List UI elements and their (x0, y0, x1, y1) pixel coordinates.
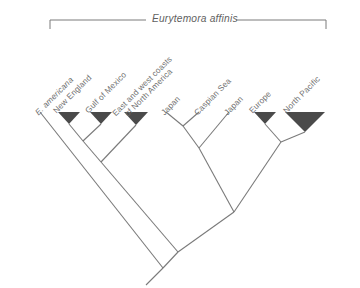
collapsed-clade-triangle-new-england (58, 112, 80, 124)
branch-gulf-of-mexico (83, 124, 101, 141)
branch-japan-2 (199, 112, 229, 148)
branch-e-americana (40, 112, 163, 268)
tree-branches (40, 112, 305, 285)
branch-right-clade-stem (178, 212, 234, 252)
phylogenetic-tree-figure: E. americanaNew EnglandGulf of MexicoEas… (0, 0, 360, 288)
collapsed-clade-triangle-gulf-of-mexico (90, 112, 112, 124)
branch-ne-gom-stem (83, 141, 101, 162)
collapsed-clade-triangle-europe (254, 112, 276, 124)
branch-japan-clade-stem (199, 148, 234, 212)
branch-north-pacific (281, 132, 305, 142)
collapsed-clade-triangle-north-pacific (285, 112, 325, 132)
branch-europe-npacific-stem (234, 142, 281, 212)
branch-europe (265, 124, 281, 142)
branch-affinis-stem (163, 252, 178, 268)
branch-new-england (69, 124, 83, 141)
clade-bracket-label: Eurytemora affinis (152, 13, 238, 24)
branch-east-west-coasts (101, 125, 136, 162)
cladogram-canvas (0, 0, 360, 288)
branch-japan-caspian-stem (183, 126, 199, 148)
collapsed-clade-triangles (58, 112, 325, 132)
branch-root (146, 268, 163, 285)
